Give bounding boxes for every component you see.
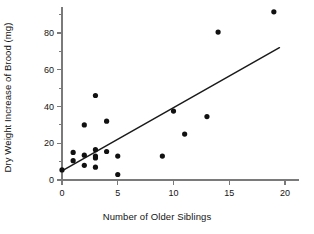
data-point bbox=[93, 165, 98, 170]
tick-label: 15 bbox=[224, 188, 234, 198]
data-point bbox=[204, 114, 209, 119]
x-axis-tick-labels: 05101520 bbox=[59, 188, 290, 198]
x-axis: 05101520 bbox=[59, 180, 299, 198]
tick-label: 60 bbox=[44, 65, 54, 75]
data-point bbox=[216, 29, 221, 34]
data-point bbox=[59, 167, 64, 172]
data-point bbox=[104, 119, 109, 124]
y-axis-title: Dry Weight Increase of Brood (mg) bbox=[3, 23, 14, 173]
data-point bbox=[71, 158, 76, 163]
tick-label: 40 bbox=[44, 102, 54, 112]
y-axis-major-ticks bbox=[57, 33, 62, 180]
data-point bbox=[104, 149, 109, 154]
data-point bbox=[182, 131, 187, 136]
tick-label: 20 bbox=[280, 188, 290, 198]
data-point bbox=[93, 147, 98, 152]
data-point bbox=[271, 9, 276, 14]
data-point bbox=[115, 154, 120, 159]
data-point bbox=[82, 163, 87, 168]
plot-canvas: 020406080 05101520 bbox=[0, 0, 314, 234]
scatter-plot-figure: 020406080 05101520 Dry Weight Increase o… bbox=[0, 0, 314, 234]
tick-label: 10 bbox=[168, 188, 178, 198]
tick-label: 20 bbox=[44, 138, 54, 148]
data-point bbox=[82, 153, 87, 158]
tick-label: 0 bbox=[59, 188, 64, 198]
data-point bbox=[93, 93, 98, 98]
data-point bbox=[160, 154, 165, 159]
x-axis-major-ticks bbox=[62, 180, 285, 185]
data-point bbox=[71, 150, 76, 155]
x-axis-title: Number of Older Siblings bbox=[0, 211, 314, 222]
regression-trendline bbox=[62, 48, 279, 171]
y-axis-tick-labels: 020406080 bbox=[44, 28, 54, 185]
data-point bbox=[171, 108, 176, 113]
data-point bbox=[82, 122, 87, 127]
tick-label: 5 bbox=[115, 188, 120, 198]
scatter-data-points bbox=[59, 9, 276, 177]
tick-label: 80 bbox=[44, 28, 54, 38]
y-axis-title-container: Dry Weight Increase of Brood (mg) bbox=[0, 0, 16, 195]
y-axis: 020406080 bbox=[44, 7, 62, 185]
tick-label: 0 bbox=[49, 175, 54, 185]
data-point bbox=[93, 155, 98, 160]
data-point bbox=[115, 172, 120, 177]
